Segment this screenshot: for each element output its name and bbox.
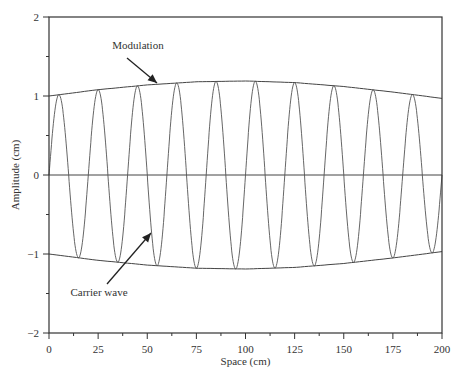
x-tick-label: 125 [286, 343, 303, 355]
x-tick-label: 150 [336, 343, 353, 355]
y-tick-label: 2 [34, 11, 40, 23]
carrier-wave-annotation: Carrier wave [70, 286, 127, 298]
y-tick-label: 0 [34, 169, 40, 181]
x-tick-label: 50 [142, 343, 154, 355]
modulation-annotation: Modulation [112, 39, 164, 51]
y-tick-label: 1 [34, 90, 40, 102]
axes: 0255075100125150175200210−1−2 [27, 11, 450, 355]
x-tick-label: 175 [385, 343, 402, 355]
x-tick-label: 200 [434, 343, 451, 355]
chart: 0255075100125150175200210−1−2 Space (cm)… [0, 0, 459, 386]
y-tick-label: −1 [27, 248, 39, 260]
plot-area [49, 81, 442, 269]
x-tick-label: 75 [191, 343, 203, 355]
x-axis-title: Space (cm) [221, 355, 271, 368]
x-tick-label: 0 [46, 343, 52, 355]
carrier-wave-line [49, 81, 442, 269]
y-axis-title: Amplitude (cm) [9, 139, 22, 210]
lower-envelope-line [49, 252, 442, 269]
x-tick-label: 25 [93, 343, 105, 355]
x-tick-label: 100 [237, 343, 254, 355]
upper-envelope-line [49, 81, 442, 98]
y-tick-label: −2 [27, 327, 39, 339]
